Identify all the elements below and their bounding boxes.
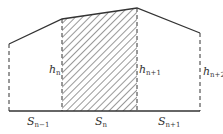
label-h-n1: hn+1 — [139, 63, 161, 77]
label-s-n: Sn — [95, 115, 108, 129]
label-s-prev: Sn−1 — [27, 115, 49, 129]
hatched-region-sn — [62, 8, 137, 111]
label-h-n: hn — [49, 63, 61, 77]
label-s-next: Sn+1 — [158, 115, 180, 129]
strip-area-diagram: hn hn+1 hn+2 Sn−1 Sn Sn+1 — [0, 0, 223, 134]
label-h-n2: hn+2 — [203, 65, 223, 79]
